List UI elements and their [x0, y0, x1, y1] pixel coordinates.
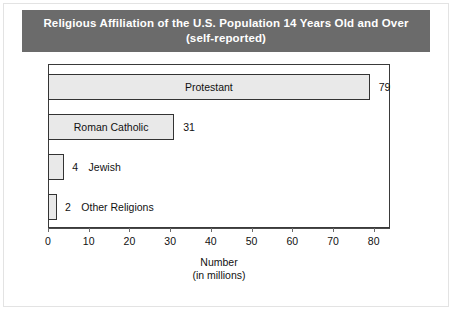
- x-axis-tick: [170, 228, 171, 232]
- x-axis-tick: [252, 228, 253, 232]
- x-axis-tick-label: 0: [45, 235, 51, 247]
- x-axis-tick: [48, 228, 49, 232]
- bar-chart-plot: Protestant79Roman Catholic314 Jewish2 Ot…: [48, 64, 390, 228]
- bar-jewish: [48, 154, 64, 180]
- x-axis-line: 01020304050607080: [48, 228, 390, 229]
- bar-protestant: Protestant: [48, 74, 370, 100]
- bar-label: Roman Catholic: [74, 121, 149, 133]
- bar-label: Protestant: [185, 81, 233, 93]
- x-axis-tick-label: 60: [286, 235, 298, 247]
- x-axis-tick: [211, 228, 212, 232]
- bar-row: Roman Catholic31: [48, 110, 195, 144]
- bar-value-and-label: 2 Other Religions: [65, 201, 154, 213]
- x-axis-tick-label: 30: [164, 235, 176, 247]
- x-axis-tick-label: 50: [246, 235, 258, 247]
- chart-title-bar: Religious Affiliation of the U.S. Popula…: [22, 10, 430, 52]
- x-axis-title-line-1: Number: [48, 256, 390, 269]
- x-axis-tick-label: 20: [124, 235, 136, 247]
- x-axis-tick: [292, 228, 293, 232]
- x-axis-title: Number (in millions): [48, 256, 390, 282]
- bar-value: 79: [379, 81, 391, 93]
- bar-roman-catholic: Roman Catholic: [48, 114, 174, 140]
- x-axis-tick: [374, 228, 375, 232]
- bar-row: 4 Jewish: [48, 150, 121, 184]
- bar-row: Protestant79: [48, 70, 390, 104]
- x-axis-tick-label: 80: [368, 235, 380, 247]
- bar-row: 2 Other Religions: [48, 190, 154, 224]
- bar-value-and-label: 4 Jewish: [72, 161, 120, 173]
- bar-value: 31: [183, 121, 195, 133]
- x-axis-title-line-2: (in millions): [48, 269, 390, 282]
- x-axis-tick-label: 70: [327, 235, 339, 247]
- x-axis-tick: [89, 228, 90, 232]
- page-title-line-2: (self-reported): [186, 31, 266, 46]
- page-title-line-1: Religious Affiliation of the U.S. Popula…: [43, 16, 408, 31]
- chart-page: Religious Affiliation of the U.S. Popula…: [0, 0, 452, 310]
- x-axis-tick-label: 10: [83, 235, 95, 247]
- bar-other-religions: [48, 194, 57, 220]
- x-axis-tick-label: 40: [205, 235, 217, 247]
- x-axis-tick: [333, 228, 334, 232]
- x-axis-tick: [129, 228, 130, 232]
